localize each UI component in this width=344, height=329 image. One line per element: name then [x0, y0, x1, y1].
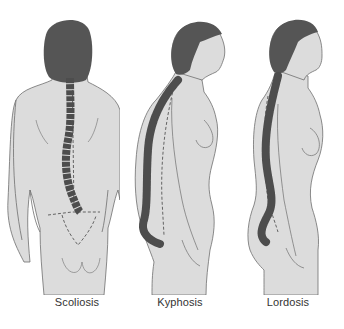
scoliosis-label: Scoliosis: [22, 296, 132, 308]
lordosis-illustration: [232, 0, 344, 295]
kyphosis-illustration: [120, 0, 232, 295]
scoliosis-figure: [0, 0, 120, 295]
lordosis-label: Lordosis: [233, 296, 343, 308]
kyphosis-figure: [120, 0, 232, 295]
lordosis-figure: [232, 0, 344, 295]
scoliosis-illustration: [0, 0, 120, 295]
kyphosis-label: Kyphosis: [125, 296, 235, 308]
